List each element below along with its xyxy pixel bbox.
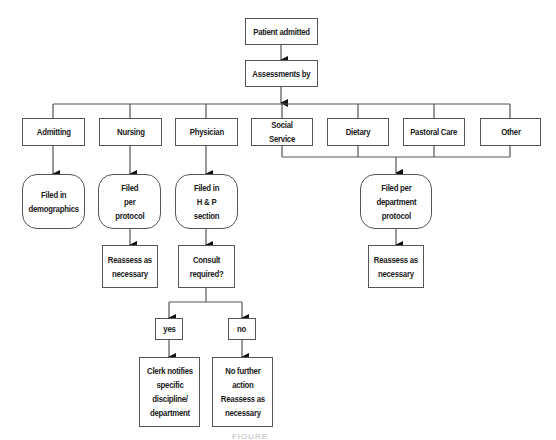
node-filed-per-protocol: Filed per protocol	[98, 174, 161, 229]
node-label: no	[237, 322, 246, 336]
node-label: Filed per department protocol	[376, 181, 416, 223]
node-assessments-by: Assessments by	[245, 60, 318, 87]
node-filed-hp-section: Filed in H & P section	[175, 174, 238, 229]
node-no: no	[228, 318, 256, 340]
node-label: Patient admitted	[253, 25, 310, 39]
node-social-service: Social Service	[251, 118, 313, 146]
node-dept-reassess: Reassess as necessary	[368, 245, 424, 288]
node-clerk-notifies: Clerk notifies specific discipline/ depa…	[139, 357, 200, 427]
node-label: Filed per protocol	[115, 181, 144, 223]
node-nursing: Nursing	[99, 118, 162, 146]
node-label: Reassess as necessary	[374, 253, 418, 281]
node-label: Nursing	[117, 125, 145, 139]
node-other: Other	[480, 118, 541, 146]
node-label: Consult required?	[190, 253, 224, 281]
node-label: Pastoral Care	[410, 125, 457, 139]
node-label: Assessments by	[252, 67, 310, 81]
node-consult-required: Consult required?	[178, 245, 235, 288]
node-label: Admitting	[36, 125, 70, 139]
node-physician: Physician	[175, 118, 238, 146]
node-label: Filed in H & P section	[194, 181, 220, 223]
node-no-further-action: No further action Reassess as necessary	[212, 357, 273, 427]
node-filed-demographics: Filed in demographics	[22, 174, 85, 229]
node-label: Social Service	[257, 118, 306, 146]
node-nursing-reassess: Reassess as necessary	[102, 245, 158, 288]
node-dietary: Dietary	[327, 118, 389, 146]
node-admitting: Admitting	[22, 118, 85, 146]
node-filed-department-protocol: Filed per department protocol	[360, 174, 432, 229]
node-label: Clerk notifies specific discipline/ depa…	[147, 364, 193, 420]
node-yes: yes	[155, 318, 183, 340]
node-label: Filed in demographics	[28, 188, 78, 216]
node-label: Reassess as necessary	[108, 253, 152, 281]
node-label: Other	[501, 125, 521, 139]
node-label: Dietary	[346, 125, 371, 139]
node-label: Physician	[189, 125, 223, 139]
node-label: No further action Reassess as necessary	[220, 364, 264, 420]
node-pastoral-care: Pastoral Care	[403, 118, 465, 146]
node-patient-admitted: Patient admitted	[245, 18, 318, 45]
figure-caption: FIGURE	[200, 432, 300, 440]
node-label: yes	[163, 322, 175, 336]
